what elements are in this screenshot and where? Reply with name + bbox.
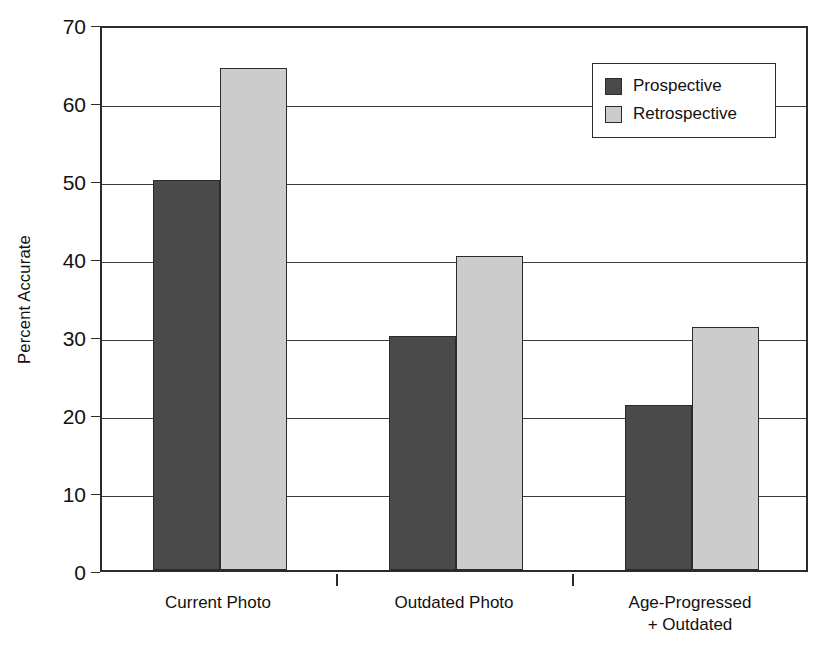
y-tick-label: 70: [16, 16, 86, 37]
x-tick-mark: [572, 574, 574, 586]
legend-swatch-icon-retrospective: [605, 106, 622, 123]
legend: Prospective Retrospective: [592, 63, 776, 138]
y-axis-title: Percent Accurate: [15, 190, 34, 410]
y-tick-label: 50: [16, 172, 86, 193]
y-tick-label: 20: [16, 406, 86, 427]
y-tick-mark: [91, 572, 100, 573]
y-tick-label: 30: [16, 328, 86, 349]
y-tick-label: 60: [16, 94, 86, 115]
y-tick-label: 40: [16, 250, 86, 271]
x-axis-category-label: Age-Progressed + Outdated: [572, 592, 808, 636]
legend-swatch-icon-prospective: [605, 78, 622, 95]
y-tick-mark: [91, 104, 100, 105]
bar-chart: Percent Accurate 010203040506070 Current…: [0, 0, 817, 647]
legend-item-retrospective: Retrospective: [605, 100, 765, 128]
y-tick-label: 0: [16, 562, 86, 583]
y-tick-mark: [91, 260, 100, 261]
x-axis-category-label: Outdated Photo: [336, 592, 572, 614]
y-tick-mark: [91, 416, 100, 417]
legend-label-prospective: Prospective: [633, 76, 722, 96]
y-tick-mark: [91, 494, 100, 495]
y-tick-label: 10: [16, 484, 86, 505]
x-axis-category-label: Current Photo: [100, 592, 336, 614]
y-tick-mark: [91, 26, 100, 27]
bar-prospective-1: [153, 180, 220, 570]
x-tick-mark: [336, 574, 338, 586]
bar-retrospective-2: [456, 256, 523, 570]
y-tick-mark: [91, 338, 100, 339]
legend-item-prospective: Prospective: [605, 72, 765, 100]
legend-label-retrospective: Retrospective: [633, 104, 737, 124]
bar-retrospective-1: [220, 68, 287, 570]
bar-retrospective-3: [692, 327, 759, 570]
bar-prospective-2: [389, 336, 456, 570]
y-tick-mark: [91, 182, 100, 183]
bar-prospective-3: [625, 405, 692, 570]
